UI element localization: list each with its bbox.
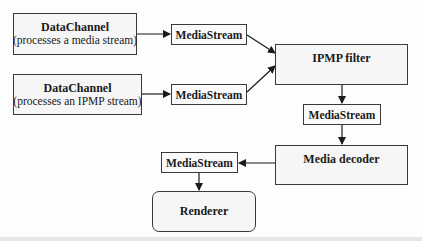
node-title: DataChannel — [41, 21, 109, 34]
arrow-ms1-to-ipmp — [247, 35, 275, 53]
mediastream-3-node: MediaStream — [303, 104, 381, 125]
diagram-canvas: DataChannel (processes a media stream) D… — [0, 0, 422, 241]
node-title: DataChannel — [43, 82, 111, 95]
bottom-divider — [0, 237, 422, 241]
node-label: MediaStream — [309, 109, 376, 121]
arrow-ms2-to-ipmp — [247, 66, 275, 92]
mediastream-4-node: MediaStream — [161, 152, 238, 173]
media-decoder-node: Media decoder — [275, 145, 408, 185]
datachannel-media-node: DataChannel (processes a media stream) — [13, 13, 137, 55]
datachannel-ipmp-node: DataChannel (processes an IPMP stream) — [13, 74, 142, 115]
node-label: MediaStream — [176, 89, 243, 101]
node-label: IPMP filter — [312, 52, 370, 65]
renderer-node: Renderer — [152, 191, 256, 232]
node-subtitle: (processes a media stream) — [13, 34, 137, 47]
node-label: MediaStream — [166, 157, 233, 169]
node-label: Media decoder — [303, 153, 379, 166]
node-label: Renderer — [180, 205, 228, 218]
node-label: MediaStream — [176, 29, 243, 41]
mediastream-1-node: MediaStream — [171, 24, 247, 45]
ipmp-filter-node: IPMP filter — [275, 44, 408, 85]
node-subtitle: (processes an IPMP stream) — [13, 95, 141, 108]
mediastream-2-node: MediaStream — [171, 84, 247, 105]
